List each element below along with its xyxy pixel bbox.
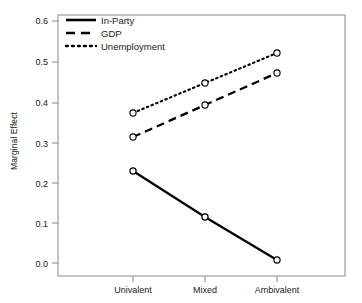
data-point — [130, 134, 136, 140]
chart-figure: Marginal Effect 0.6 0.5 0.4 0.3 0.2 0.1 … — [0, 0, 362, 303]
data-point — [274, 70, 280, 76]
x-axis-ticks — [133, 276, 277, 282]
data-point — [202, 214, 208, 220]
data-point — [202, 80, 208, 86]
data-point — [274, 257, 280, 263]
data-point — [130, 110, 136, 116]
legend-swatches — [66, 20, 96, 46]
data-point — [274, 50, 280, 56]
chart-canvas — [0, 0, 362, 303]
plot-frame — [58, 15, 345, 276]
series-in-party — [130, 168, 280, 263]
data-point — [202, 102, 208, 108]
data-point — [130, 168, 136, 174]
y-axis-ticks — [52, 21, 58, 263]
